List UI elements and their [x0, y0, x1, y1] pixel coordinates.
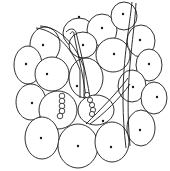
cell [78, 95, 114, 125]
cell-dot [78, 16, 80, 18]
cell-outline [127, 110, 155, 146]
cell [58, 124, 98, 168]
cell-dot [156, 96, 158, 98]
bead [89, 111, 94, 116]
bead [57, 113, 63, 119]
cell [25, 117, 59, 159]
cell-dot [132, 86, 134, 88]
cell-dot [77, 145, 79, 147]
cell-dot [82, 44, 84, 46]
cell [35, 57, 69, 91]
cell [141, 82, 167, 114]
cell [111, 2, 137, 30]
cell-dot [113, 53, 115, 55]
bead [87, 97, 92, 102]
bead [84, 92, 89, 97]
cell-dot [101, 27, 103, 29]
cell-dot [122, 13, 124, 15]
cells-group [14, 2, 167, 168]
cell-outline [78, 95, 114, 125]
cell-dot [25, 63, 27, 65]
cell-outline [141, 82, 167, 114]
cell-dot [102, 120, 104, 122]
cell-dot [110, 146, 112, 148]
cell-dot [139, 129, 141, 131]
cell-cluster-illustration [0, 0, 170, 171]
cell-dot [46, 73, 48, 75]
cell-outline [96, 38, 130, 72]
cell [69, 32, 97, 58]
cell-outline [35, 57, 69, 91]
cell-dot [42, 44, 44, 46]
cell-dot [31, 102, 33, 104]
cell [127, 110, 155, 146]
cell-dot [148, 63, 150, 65]
cell-outline [111, 2, 137, 30]
cell-dot [139, 39, 141, 41]
cell [96, 38, 130, 72]
cell-dot [40, 137, 42, 139]
cell-dot [76, 85, 78, 87]
bead [89, 102, 94, 107]
